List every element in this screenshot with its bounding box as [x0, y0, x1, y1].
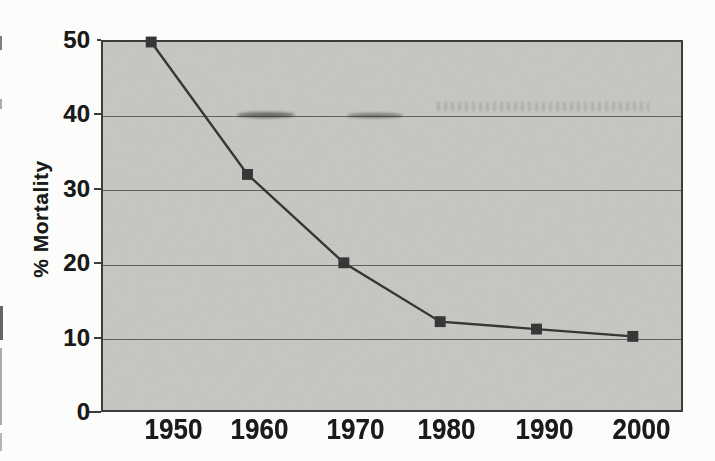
- y-tick-mark: [94, 188, 101, 190]
- data-point-marker-1950: [146, 37, 157, 48]
- x-tick-label: 1960: [215, 413, 305, 447]
- data-point-marker-1990: [531, 324, 542, 335]
- y-tick-mark: [94, 262, 101, 264]
- page-edge-mark: [0, 433, 2, 451]
- data-point-marker-1980: [435, 316, 446, 327]
- data-point-marker-1960: [242, 169, 253, 180]
- x-tick-label: 1970: [311, 413, 401, 447]
- data-line: [151, 42, 633, 336]
- y-tick-label: 20: [28, 250, 90, 276]
- y-tick-label: 40: [28, 101, 90, 127]
- page-edge-mark: [0, 306, 3, 340]
- x-tick-label: 1980: [402, 413, 492, 447]
- series-layer: [103, 42, 681, 410]
- x-tick-label: 1950: [129, 413, 219, 447]
- page-edge-mark: [0, 36, 2, 50]
- y-tick-label: 30: [28, 176, 90, 202]
- y-tick-label: 10: [28, 325, 90, 351]
- y-tick-label: 0: [28, 399, 90, 425]
- page-edge-mark: [0, 348, 2, 425]
- data-point-marker-2000: [627, 331, 638, 342]
- plot-area: [101, 40, 683, 412]
- y-tick-label: 50: [28, 27, 90, 53]
- mortality-line-series: [103, 42, 681, 410]
- y-tick-mark: [94, 113, 101, 115]
- y-tick-mark: [94, 337, 101, 339]
- x-tick-label: 1990: [500, 413, 590, 447]
- scanned-line-chart-figure: % Mortality 01020304050 1950196019701980…: [0, 0, 715, 461]
- page-edge-mark: [0, 99, 2, 109]
- x-tick-label: 2000: [597, 413, 687, 447]
- data-point-marker-1970: [338, 257, 349, 268]
